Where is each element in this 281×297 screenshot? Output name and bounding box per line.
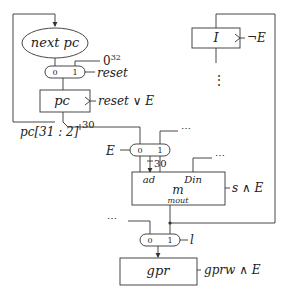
- svg-text:30: 30: [154, 158, 167, 169]
- mux-l: [140, 234, 180, 246]
- pc-control-label: reset ∨ E: [98, 94, 154, 108]
- svg-text:gpr: gpr: [147, 263, 171, 278]
- svg-text:⋯: ⋯: [215, 150, 225, 161]
- svg-text:Din: Din: [183, 174, 202, 185]
- svg-text:1: 1: [167, 236, 172, 245]
- svg-text:m: m: [172, 183, 183, 197]
- gpr-control-label: gprw ∧ E: [204, 263, 261, 277]
- memory-control-label: s ∧ E: [232, 181, 264, 195]
- svg-text:⋯: ⋯: [107, 213, 117, 224]
- E-label: E: [105, 144, 115, 158]
- nextpc-label: next pc: [31, 35, 80, 50]
- svg-text:1: 1: [72, 68, 77, 77]
- mux-l-in0-wire: [128, 221, 150, 234]
- mux-E: [130, 144, 170, 156]
- svg-text:1: 1: [157, 146, 162, 155]
- svg-text:0: 0: [137, 146, 142, 155]
- datapath-diagram: next pc 032 0 1 reset pc reset ∨ E pc[31…: [0, 0, 281, 297]
- svg-text:⋮: ⋮: [213, 73, 225, 87]
- reset-label: reset: [97, 66, 128, 80]
- pc-slice-width: 30: [82, 119, 95, 130]
- din-wire: [193, 158, 212, 172]
- svg-text:ad: ad: [143, 174, 155, 185]
- pc-output-wire: [63, 112, 140, 177]
- svg-text:pc: pc: [54, 93, 70, 108]
- instr-control-label: ¬E: [247, 31, 266, 45]
- pc-slice-label: pc[31 : 2]: [20, 125, 79, 139]
- svg-text:I: I: [212, 30, 219, 45]
- svg-text:⋯: ⋯: [181, 123, 191, 134]
- svg-text:0: 0: [147, 236, 152, 245]
- l-label: l: [190, 233, 194, 247]
- mux-reset: [45, 66, 85, 78]
- svg-text:mout: mout: [168, 196, 190, 205]
- svg-text:0: 0: [52, 68, 57, 77]
